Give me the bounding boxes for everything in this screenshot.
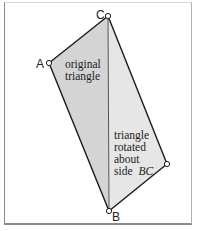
vertex-Arot-marker — [164, 161, 169, 166]
original-label-line2: triangle — [65, 70, 100, 83]
vertex-B-label: B — [112, 210, 120, 224]
rotated-label-line3: about — [114, 153, 140, 165]
triangle-rotation-diagram: A C B original triangle triangle rotated… — [0, 0, 197, 231]
rotated-label-side: side — [114, 165, 135, 177]
vertex-C-label: C — [96, 8, 105, 22]
rotated-label-line4: side BC — [114, 165, 153, 177]
vertex-A-marker — [46, 60, 51, 65]
rotated-triangle — [108, 16, 167, 211]
vertex-B-marker — [106, 208, 111, 213]
vertex-C-marker — [105, 13, 110, 18]
rotated-label-bc: BC — [138, 165, 153, 177]
vertex-A-label: A — [36, 57, 44, 71]
rotated-label-line2: rotated — [114, 141, 146, 153]
original-triangle — [49, 16, 109, 211]
